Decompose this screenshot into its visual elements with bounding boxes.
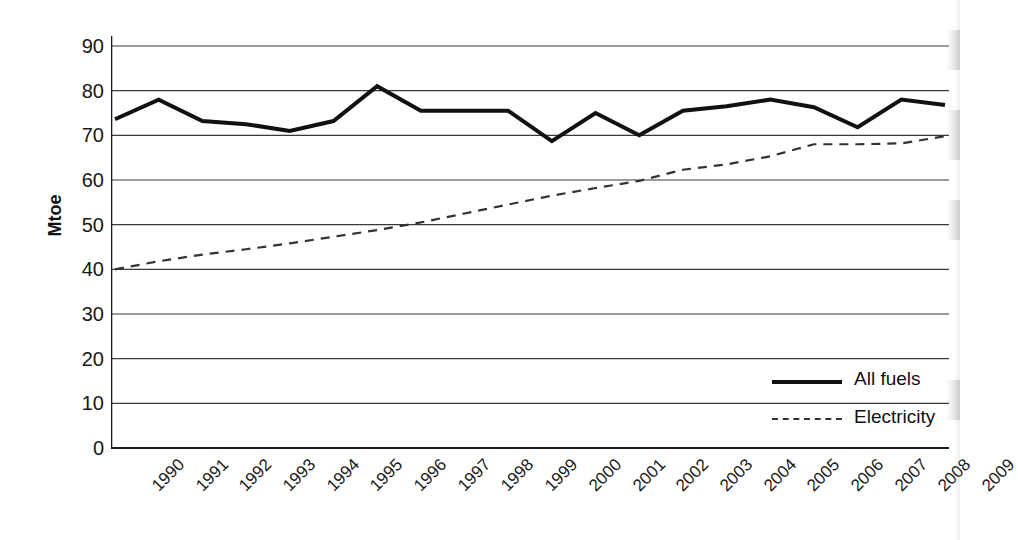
x-tick-label: 2001 [629,455,670,496]
x-tick-label: 1999 [541,455,582,496]
series-line-electricity [115,136,945,269]
x-tick-label: 1997 [454,455,495,496]
y-tick-label: 90 [60,35,104,58]
x-tick-label: 2005 [803,455,844,496]
x-tick-label: 1991 [192,455,233,496]
x-axis-tick-labels: 1990199119921993199419951996199719981999… [111,449,960,519]
series-line-all-fuels [115,86,945,141]
y-tick-label: 80 [60,79,104,102]
x-tick-label: 1994 [323,455,364,496]
x-tick-label: 1990 [148,455,189,496]
x-tick-label: 2006 [847,455,888,496]
x-tick-label: 2002 [672,455,713,496]
x-tick-label: 2008 [934,455,975,496]
y-tick-label: 50 [60,213,104,236]
legend-item-all-fuels: All fuels [772,368,958,396]
gridlines [111,46,949,403]
y-tick-label: 70 [60,124,104,147]
x-tick-label: 1998 [498,455,539,496]
y-tick-label: 30 [60,303,104,326]
legend-label-electricity: Electricity [854,406,935,428]
y-tick-label: 40 [60,258,104,281]
y-tick-label: 20 [60,347,104,370]
x-tick-label: 1995 [366,455,407,496]
x-tick-label: 1992 [235,455,276,496]
x-tick-label: 1996 [410,455,451,496]
x-tick-label: 2009 [978,455,1018,496]
x-tick-label: 2007 [891,455,932,496]
y-tick-label: 10 [60,392,104,415]
y-tick-label: 0 [60,437,104,460]
x-tick-label: 1993 [279,455,320,496]
y-axis-tick-labels: 0102030405060708090 [52,0,104,540]
x-tick-label: 2000 [585,455,626,496]
data-series-group [115,86,945,269]
chart-legend: All fuels Electricity [772,368,958,434]
y-tick-label: 60 [60,169,104,192]
x-tick-label: 2003 [716,455,757,496]
legend-line-swatch-solid [772,380,842,384]
x-tick-label: 2004 [760,455,801,496]
legend-line-swatch-dashed [772,418,842,420]
legend-label-all-fuels: All fuels [854,368,921,390]
legend-item-electricity: Electricity [772,406,958,434]
